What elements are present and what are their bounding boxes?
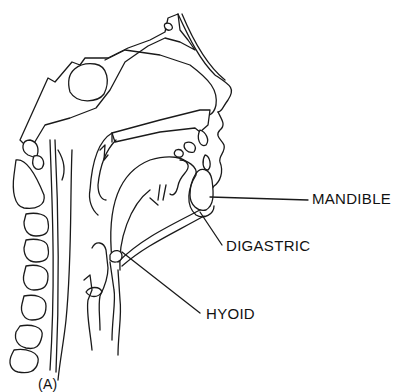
label-digastric: DIGASTRIC [226, 237, 310, 254]
teeth [174, 130, 210, 170]
hyoid-bone [110, 251, 122, 263]
digastric-leader [200, 212, 222, 245]
prevertebral-lines [50, 140, 72, 380]
label-hyoid: HYOID [206, 305, 255, 322]
hyoid-leader [122, 252, 200, 313]
leader-lines [122, 197, 308, 313]
panel-label: (A) [38, 376, 58, 392]
mandible-leader [210, 197, 308, 200]
cervical-spine [10, 140, 49, 373]
pharynx [89, 133, 116, 215]
hard-palate [112, 110, 210, 142]
label-mandible: MANDIBLE [312, 190, 391, 207]
digastric-muscle [118, 210, 204, 266]
